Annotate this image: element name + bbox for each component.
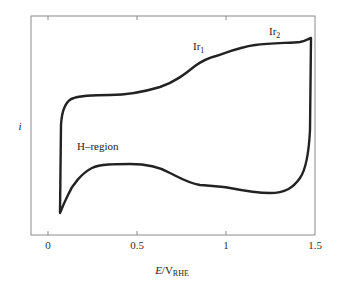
x-axis-label-sub: RHE [173, 269, 189, 278]
annotation-h-region: H–region [77, 140, 119, 152]
x-tick-label: 0 [45, 239, 51, 251]
plot-frame [31, 16, 315, 235]
cv-curve [60, 38, 311, 213]
cv-chart: 0 0.5 1 1.5 E/VRHE i H–region Ir1 Ir2 [0, 0, 339, 290]
y-axis-label: i [18, 120, 21, 132]
annotation-ir1: Ir1 [193, 40, 204, 55]
x-axis-label-sep: /V [162, 264, 173, 276]
x-tick-label: 1 [223, 239, 229, 251]
x-tick-label: 1.5 [308, 239, 322, 251]
x-tick-label: 0.5 [130, 239, 144, 251]
x-axis-label: E/VRHE [154, 264, 189, 278]
x-ticks-top [48, 16, 226, 20]
x-ticks-bottom [48, 231, 226, 235]
annotation-ir2: Ir2 [269, 25, 280, 40]
